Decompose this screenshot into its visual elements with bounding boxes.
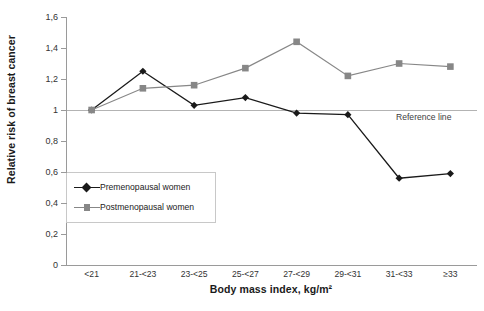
legend-square-glyph (84, 204, 91, 211)
y-axis-tick-label: 1,6 (18, 12, 58, 22)
diamond-marker-icon (74, 181, 100, 193)
data-point-marker (191, 102, 198, 109)
y-axis-tick-mark (61, 48, 67, 49)
y-axis-tick-mark (61, 203, 67, 204)
data-point-marker (242, 65, 249, 72)
legend-label-premenopausal: Premenopausal women (100, 182, 190, 192)
y-axis-tick-mark (61, 172, 67, 173)
y-axis-tick-mark (61, 234, 67, 235)
x-axis-tick-label: 31-<33 (386, 269, 413, 279)
legend-item-postmenopausal: Postmenopausal women (74, 199, 208, 215)
y-axis-tick-mark (61, 17, 67, 18)
data-point-marker (345, 73, 352, 80)
y-axis-tick-label: 1,4 (18, 43, 58, 53)
series-line-premenopausal (92, 71, 451, 178)
data-point-marker (447, 170, 454, 177)
x-axis-tick-label: 25-<27 (232, 269, 259, 279)
y-axis-tick-mark (61, 141, 67, 142)
chart-legend: Premenopausal women Postmenopausal women (66, 172, 216, 223)
y-axis-tick-mark (61, 265, 67, 266)
square-marker-icon (74, 201, 100, 213)
y-axis-tick-label: 1 (18, 105, 58, 115)
data-point-marker (191, 82, 198, 89)
y-axis-tick-label: 1,2 (18, 74, 58, 84)
data-point-marker (139, 68, 146, 75)
y-axis-tick-label: 0,6 (18, 167, 58, 177)
data-point-marker (447, 63, 454, 70)
series-line-postmenopausal (92, 42, 451, 110)
legend-diamond-glyph (82, 182, 92, 192)
x-axis-tick-label: 21-<23 (129, 269, 156, 279)
data-point-marker (242, 94, 249, 101)
y-axis-tick-mark (61, 79, 67, 80)
y-axis-tick-mark (61, 110, 67, 111)
y-axis-tick-label: 0 (18, 260, 58, 270)
y-axis-tick-label: 0,2 (18, 229, 58, 239)
x-axis-title: Body mass index, kg/m² (66, 283, 476, 295)
legend-label-postmenopausal: Postmenopausal women (100, 202, 194, 212)
x-axis-line (66, 265, 477, 266)
x-axis-tick-label: ≥33 (443, 269, 457, 279)
data-point-marker (293, 39, 300, 46)
x-axis-tick-label: <21 (84, 269, 99, 279)
y-axis-tick-label: 0,8 (18, 136, 58, 146)
data-point-marker (344, 111, 351, 118)
y-axis-tick-label: 0,4 (18, 198, 58, 208)
x-axis-tick-label: 27-<29 (283, 269, 310, 279)
reference-line (66, 110, 477, 111)
data-point-marker (396, 175, 403, 182)
x-axis-tick-label: 23-<25 (181, 269, 208, 279)
reference-line-label: Reference line (396, 112, 451, 122)
data-point-marker (140, 85, 147, 92)
legend-item-premenopausal: Premenopausal women (74, 179, 208, 195)
chart-figure: Relative risk of breast cancer 1,61,41,2… (0, 0, 484, 311)
y-axis-tick-labels: 1,61,41,210,80,60,40,20 (14, 0, 58, 311)
data-point-marker (396, 60, 403, 67)
x-axis-tick-label: 29-<31 (334, 269, 361, 279)
